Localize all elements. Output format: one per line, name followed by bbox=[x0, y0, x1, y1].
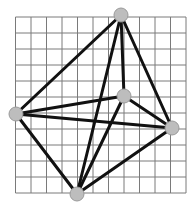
graph-edges bbox=[16, 15, 172, 194]
graph-nodes bbox=[9, 8, 179, 201]
node-top bbox=[114, 8, 128, 22]
node-middle bbox=[117, 89, 131, 103]
node-left bbox=[9, 107, 23, 121]
node-bottom bbox=[70, 187, 84, 201]
node-right bbox=[165, 121, 179, 135]
k5-grid-diagram bbox=[0, 0, 196, 204]
